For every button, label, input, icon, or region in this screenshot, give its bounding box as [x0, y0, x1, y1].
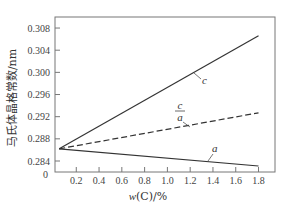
y-tick-label: 0.292 — [28, 111, 51, 122]
series-c-label: c — [202, 74, 207, 86]
y-tick-label: 0.288 — [28, 133, 51, 144]
x-tick-label: 1.4 — [207, 175, 220, 186]
x-tick-label: 0.6 — [116, 175, 129, 186]
y-tick-label: 0.308 — [28, 23, 51, 34]
series-a-label: a — [212, 142, 218, 154]
x-tick-label: 1.6 — [229, 175, 242, 186]
x-tick-label: 0.2 — [70, 175, 83, 186]
series-lines — [59, 36, 258, 166]
x-axis-ticks: 0.20.40.60.81.01.21.41.61.8 — [70, 167, 265, 186]
plot-frame — [55, 17, 275, 172]
x-tick-label: 1.8 — [252, 175, 265, 186]
x-tick-label: 0.8 — [138, 175, 151, 186]
y-axis-title: 马氏体晶格常数/nm — [5, 48, 19, 147]
series-a-leader — [208, 154, 213, 161]
x-tick-label: 0.4 — [93, 175, 106, 186]
series-ca-numerator: c — [178, 99, 183, 111]
series-line-c-over-a — [59, 113, 258, 149]
series-line-a — [59, 149, 258, 166]
x-title-rest: (C)/% — [136, 190, 167, 203]
y-tick-label: 0.284 — [28, 156, 51, 167]
lattice-constant-chart: 0.3080.3040.3000.2960.2920.2880.284 0.20… — [0, 0, 287, 206]
x-tick-label: 1.2 — [184, 175, 197, 186]
origin-label: 0 — [43, 169, 48, 180]
series-c-leader — [194, 73, 201, 79]
x-tick-label: 1.0 — [161, 175, 174, 186]
y-tick-label: 0.296 — [28, 89, 51, 100]
y-tick-label: 0.304 — [28, 45, 51, 56]
series-line-c — [59, 36, 258, 149]
series-ca-denominator: a — [177, 111, 183, 123]
y-tick-label: 0.300 — [28, 67, 51, 78]
x-axis-title: w(C)/% — [129, 190, 168, 203]
